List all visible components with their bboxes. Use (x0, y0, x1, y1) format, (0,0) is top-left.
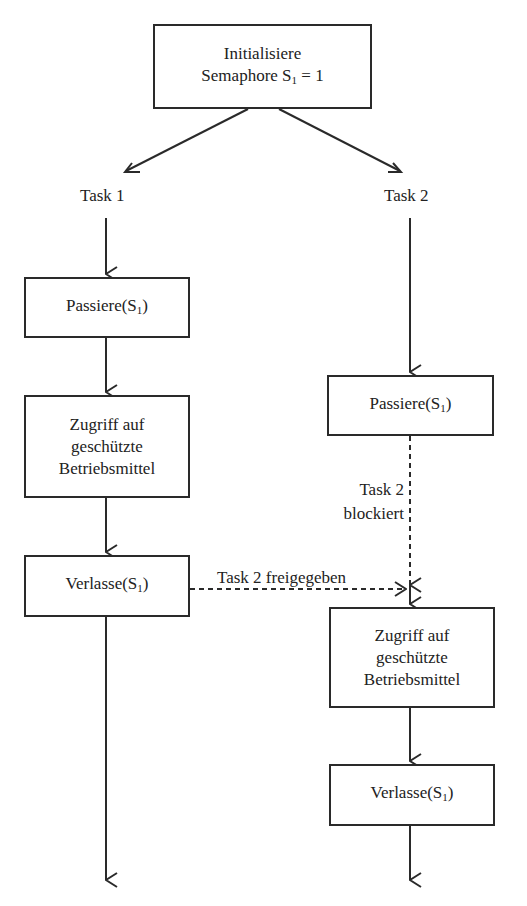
task1-zugriff-box: Zugriff auf geschützte Betriebsmittel (24, 395, 190, 498)
zugriff-line1: Zugriff auf (364, 625, 460, 647)
task1-passiere-box: Passiere(S1) (24, 277, 190, 338)
init-semaphore-box: Initialisiere Semaphore S1 = 1 (153, 24, 372, 109)
verlasse-prefix: Verlasse(S (371, 783, 443, 802)
task1-label: Task 1 (80, 186, 125, 206)
task2-zugriff-box: Zugriff auf geschützte Betriebsmittel (329, 607, 495, 708)
passiere-suffix: ) (142, 296, 148, 315)
task2-label: Task 2 (384, 186, 429, 206)
verlasse-prefix: Verlasse(S (66, 574, 138, 593)
task2-passiere-box: Passiere(S1) (327, 375, 494, 436)
arrow-init-to-task1 (126, 109, 248, 171)
init-line2-suffix: = 1 (297, 66, 324, 85)
task2-verlasse-text: Verlasse(S1) (371, 782, 454, 808)
init-line1: Initialisiere (201, 43, 323, 65)
verlasse-suffix: ) (143, 574, 149, 593)
verlasse-suffix: ) (448, 783, 454, 802)
init-line2-prefix: Semaphore S (201, 66, 291, 85)
task1-verlasse-box: Verlasse(S1) (24, 555, 190, 617)
zugriff-line3: Betriebsmittel (364, 669, 460, 691)
passiere-suffix: ) (446, 394, 452, 413)
task2-verlasse-box: Verlasse(S1) (329, 764, 495, 826)
zugriff-line2: geschützte (59, 436, 155, 458)
init-line2: Semaphore S1 = 1 (201, 65, 323, 91)
task1-verlasse-text: Verlasse(S1) (66, 573, 149, 599)
task2-passiere-text: Passiere(S1) (370, 393, 452, 419)
arrow-init-to-task2 (279, 109, 400, 171)
zugriff-line2: geschützte (364, 647, 460, 669)
task1-passiere-text: Passiere(S1) (66, 295, 148, 321)
released-annotation: Task 2 freigegeben (216, 568, 347, 588)
zugriff-line1: Zugriff auf (59, 414, 155, 436)
passiere-prefix: Passiere(S (370, 394, 441, 413)
blocked-line1: Task 2 (328, 478, 404, 502)
passiere-prefix: Passiere(S (66, 296, 137, 315)
zugriff-line3: Betriebsmittel (59, 458, 155, 480)
blocked-line2: blockiert (328, 502, 404, 526)
blocked-annotation: Task 2 blockiert (328, 478, 404, 526)
